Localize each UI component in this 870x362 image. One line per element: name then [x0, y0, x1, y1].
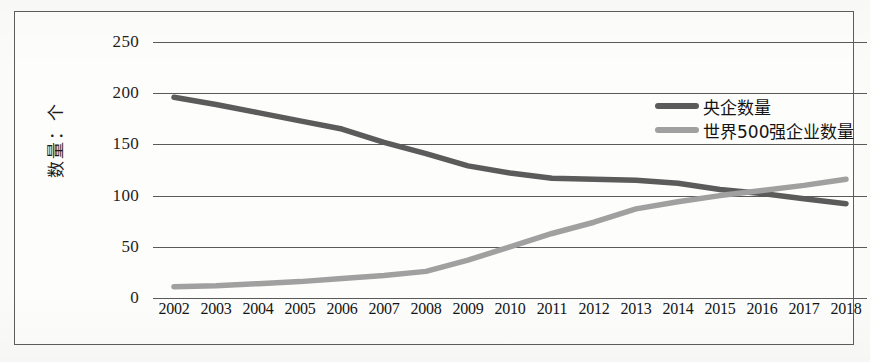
chart-frame: 数量：个 250200150100500 2002200320042005200…: [14, 11, 854, 345]
y-tick-200: 200: [15, 83, 139, 103]
y-tick-50: 50: [15, 237, 139, 257]
plot-area: [153, 42, 867, 298]
legend-swatch-series-0: [655, 103, 699, 109]
series-lines: [153, 42, 867, 298]
x-tick-2002: 2002: [153, 300, 195, 322]
legend-item-0: 央企数量: [655, 94, 870, 118]
legend-item-1: 世界500强企业数量: [655, 118, 870, 142]
x-tick-2004: 2004: [237, 300, 279, 322]
legend-label-series-1: 世界500强企业数量: [703, 118, 854, 143]
x-tick-2010: 2010: [489, 300, 531, 322]
x-tick-2007: 2007: [363, 300, 405, 322]
x-tick-2011: 2011: [531, 300, 573, 322]
x-tick-2006: 2006: [321, 300, 363, 322]
x-tick-2018: 2018: [825, 300, 867, 322]
x-tick-2009: 2009: [447, 300, 489, 322]
x-axis-tick-labels: 2002200320042005200620072008200920102011…: [153, 300, 867, 322]
chart-legend: 央企数量 世界500强企业数量: [655, 94, 870, 142]
x-tick-2016: 2016: [741, 300, 783, 322]
legend-swatch-series-1: [655, 127, 699, 133]
y-tick-0: 0: [15, 288, 139, 308]
x-tick-2017: 2017: [783, 300, 825, 322]
gridline-0: [153, 298, 867, 299]
y-tick-100: 100: [15, 186, 139, 206]
x-tick-2012: 2012: [573, 300, 615, 322]
x-tick-2008: 2008: [405, 300, 447, 322]
series-line-1: [174, 179, 846, 287]
y-tick-250: 250: [15, 32, 139, 52]
legend-label-series-0: 央企数量: [703, 94, 771, 119]
chart-page: 数量：个 250200150100500 2002200320042005200…: [0, 0, 870, 362]
x-tick-2003: 2003: [195, 300, 237, 322]
x-tick-2005: 2005: [279, 300, 321, 322]
x-tick-2013: 2013: [615, 300, 657, 322]
x-tick-2014: 2014: [657, 300, 699, 322]
y-tick-150: 150: [15, 134, 139, 154]
x-tick-2015: 2015: [699, 300, 741, 322]
